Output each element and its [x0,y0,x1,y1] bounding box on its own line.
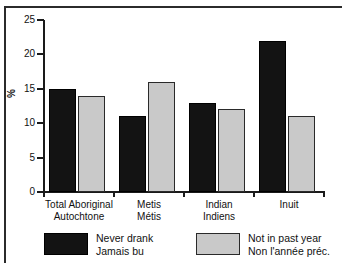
y-axis-tick-label: 25 [0,15,35,25]
y-axis-tick [37,122,44,124]
figure-border-top [4,6,342,8]
legend-label-never-drank: Never drank Jamais bu [96,232,153,257]
x-axis-tick [183,191,185,197]
y-axis-tick-label: 15 [0,84,35,94]
legend-item-never-drank: Never drank Jamais bu [44,232,153,257]
y-axis-tick-label: 5 [0,153,35,163]
legend-label-never-drank-fr: Jamais bu [96,245,153,258]
x-axis-tick [113,191,115,197]
y-axis-tick [37,157,44,159]
y-axis-tick [37,19,44,21]
bar [259,41,286,192]
x-axis-category-label-en: Inuit [236,199,342,211]
legend-label-not-past-year: Not in past year Non l'année préc. [248,232,330,257]
bar [288,116,315,192]
y-axis-tick [37,88,44,90]
y-axis-tick [37,53,44,55]
bar [148,82,175,192]
bar [49,89,76,192]
chart-figure: % 0510152025 Never drank Jamais bu Not i… [0,0,346,269]
x-axis-category-label-fr: Indiens [166,211,272,223]
chart-legend: Never drank Jamais bu Not in past year N… [0,228,346,266]
legend-label-never-drank-en: Never drank [96,232,153,245]
x-axis-tick [253,191,255,197]
x-axis-category-label: Inuit [236,199,342,211]
plot-area [44,20,324,192]
bar [119,116,146,192]
bar [78,96,105,192]
legend-swatch-not-past-year [196,233,240,255]
legend-item-not-past-year: Not in past year Non l'année préc. [196,232,330,257]
x-axis-tick [323,191,325,197]
y-axis-tick-labels: 0510152025 [0,20,38,193]
y-axis-tick-label: 20 [0,49,35,59]
y-axis-tick-label: 10 [0,118,35,128]
y-axis-tick-label: 0 [0,187,35,197]
x-axis-tick [43,191,45,197]
legend-swatch-never-drank [44,233,88,255]
bar [189,103,216,192]
bar [218,109,245,192]
legend-label-not-past-year-fr: Non l'année préc. [248,245,330,258]
legend-label-not-past-year-en: Not in past year [248,232,330,245]
